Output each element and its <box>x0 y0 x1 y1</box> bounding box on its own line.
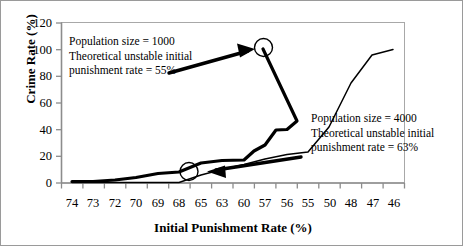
annotation-1000-line-1: Population size = 1000 <box>69 34 192 49</box>
annotation-4000-line-1: Population size = 4000 <box>311 111 434 126</box>
y-tick-label-0: 0 <box>18 176 52 191</box>
y-tick-label-40: 40 <box>18 123 52 138</box>
x-tick-label-11: 55 <box>296 196 320 211</box>
y-tick-label-80: 80 <box>18 69 52 84</box>
x-tick-label-3: 70 <box>124 196 148 211</box>
annotation-1000-line-2: Theoretical unstable initial <box>69 49 192 64</box>
x-tick-label-13: 48 <box>339 196 363 211</box>
annotation-4000-line-3: punishment rate = 63% <box>311 140 434 155</box>
annotation-population-4000: Population size = 4000 Theoretical unsta… <box>311 111 434 155</box>
x-tick-label-7: 63 <box>210 196 234 211</box>
y-axis-ticks <box>56 23 62 183</box>
annotation-4000-line-2: Theoretical unstable initial <box>311 126 434 141</box>
y-tick-label-20: 20 <box>18 149 52 164</box>
x-tick-label-1: 73 <box>81 196 105 211</box>
y-tick-label-120: 120 <box>18 16 52 31</box>
annotation-population-1000: Population size = 1000 Theoretical unsta… <box>69 34 192 78</box>
x-tick-label-15: 46 <box>382 196 406 211</box>
x-tick-label-9: 57 <box>253 196 277 211</box>
x-tick-label-5: 68 <box>167 196 191 211</box>
x-axis-ticks <box>62 183 405 189</box>
y-tick-label-60: 60 <box>18 96 52 111</box>
annotation-1000-line-3: punishment rate = 55% <box>69 63 192 78</box>
chart-figure: Crime Rate (%) Initial Punishment Rate (… <box>0 0 463 246</box>
y-tick-label-100: 100 <box>18 43 52 58</box>
x-axis-title: Initial Punishment Rate (%) <box>61 220 405 236</box>
